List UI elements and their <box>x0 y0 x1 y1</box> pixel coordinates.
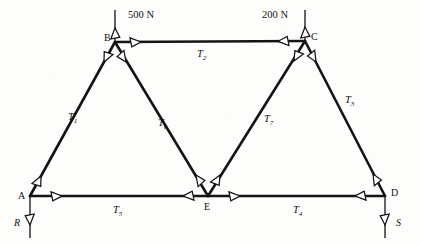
member-T3-line <box>305 41 385 196</box>
node-label-E: E <box>204 201 210 212</box>
member-label-T2: T2 <box>197 48 207 62</box>
member-force-arrowheads <box>32 37 382 201</box>
truss-diagram-svg: A B C D E T1 T2 T3 T4 T5 T6 <box>0 0 421 246</box>
member-label-T4-sub: 4 <box>299 210 303 218</box>
member-label-T6: T6 <box>158 117 168 131</box>
arrowhead-T5-at-E <box>183 191 194 200</box>
arrowhead-T3-at-C <box>307 50 320 64</box>
member-label-T6-sub: 6 <box>164 123 168 131</box>
node-label-D: D <box>391 187 398 198</box>
member-label-T5-sub: 5 <box>119 210 123 218</box>
arrowhead-T5-at-A <box>51 192 62 201</box>
arrowhead-T4-at-E <box>229 192 240 201</box>
truss-diagram-canvas: A B C D E T1 T2 T3 T4 T5 T6 <box>0 0 421 246</box>
load-label-500n: 500 N <box>128 9 154 20</box>
load-labels: 500 N 200 N <box>128 9 288 20</box>
reaction-label-S: S <box>396 217 401 228</box>
arrowhead-reaction-s-up <box>380 214 389 225</box>
member-label-T7: T7 <box>264 113 274 127</box>
arrowhead-T1-at-A <box>32 174 45 188</box>
arrowhead-reaction-r-up <box>25 214 34 225</box>
member-label-T3: T3 <box>345 94 355 108</box>
arrowhead-T2-at-C <box>278 37 289 46</box>
arrowhead-load-c-down <box>301 27 310 38</box>
member-label-T2-sub: 2 <box>203 54 207 62</box>
member-label-T4: T4 <box>293 204 303 218</box>
arrowhead-T2-at-B <box>130 38 141 47</box>
member-label-T3-sub: 3 <box>350 100 355 108</box>
reaction-label-R: R <box>13 217 20 228</box>
arrowhead-T4-at-D <box>355 191 366 200</box>
arrowhead-load-b-down <box>111 28 120 39</box>
member-T7-line <box>208 41 305 196</box>
node-label-B: B <box>104 32 111 43</box>
reaction-labels: R S <box>13 217 401 228</box>
arrowhead-T3-at-D <box>369 172 382 186</box>
member-label-T7-sub: 7 <box>270 119 274 127</box>
arrowhead-T1-at-B <box>100 50 113 64</box>
truss-members <box>30 41 385 196</box>
member-label-T1-sub: 1 <box>74 117 78 125</box>
member-T2-line <box>115 41 305 42</box>
node-label-C: C <box>311 31 318 42</box>
node-label-A: A <box>18 190 26 201</box>
member-label-T5: T5 <box>113 204 123 218</box>
load-label-200n: 200 N <box>262 9 288 20</box>
